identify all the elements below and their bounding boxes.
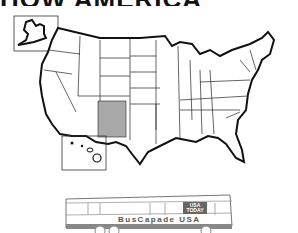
contiguous-us xyxy=(40,28,274,164)
new-mexico-highlight xyxy=(98,101,126,137)
usa-today-logo: USA TODAY xyxy=(185,203,205,213)
logo-line2: TODAY xyxy=(185,208,205,213)
bus-illustration xyxy=(66,195,232,233)
bus-name-label: BusCapade USA xyxy=(118,215,201,224)
us-map xyxy=(0,0,298,233)
